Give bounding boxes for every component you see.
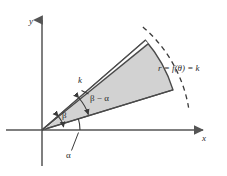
alpha-angle-label: α <box>66 151 71 160</box>
polar-sector-figure: y x α β β − α k r = f(θ) = k <box>0 0 227 176</box>
beta-angle-label: β <box>62 111 67 120</box>
x-axis-label: x <box>202 134 206 143</box>
figure-canvas <box>0 0 227 176</box>
alpha-angle-arc <box>78 119 80 130</box>
alpha-label-leader <box>72 133 79 151</box>
curve-equation-label: r = f(θ) = k <box>158 64 200 73</box>
radius-k-label: k <box>78 76 82 85</box>
beta-minus-alpha-label: β − α <box>90 94 109 103</box>
y-axis-label: y <box>29 17 33 26</box>
